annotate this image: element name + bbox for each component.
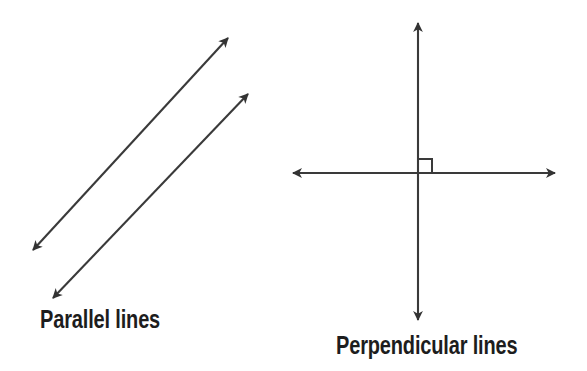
parallel-lines-label: Parallel lines: [40, 307, 160, 332]
perpendicular-lines-label: Perpendicular lines: [336, 333, 517, 358]
parallel-lines-group: [33, 38, 248, 298]
perpendicular-lines-group: [293, 23, 555, 320]
figure-root: Parallel lines Perpendicular lines: [0, 0, 587, 371]
right-angle-square: [418, 159, 432, 173]
